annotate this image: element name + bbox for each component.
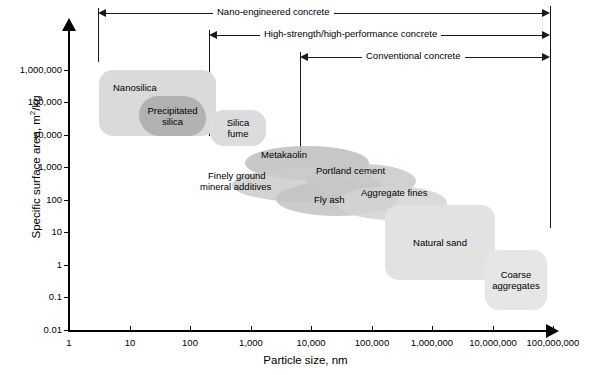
- x-tick-label: 100: [155, 337, 225, 348]
- region-label-line2: fume: [227, 128, 248, 139]
- region-label-line1: Coarse: [501, 269, 532, 280]
- y-tick-label: 0.01: [0, 325, 62, 335]
- region-label: Nanosilica: [113, 82, 157, 93]
- region-precipitated-silica: Precipitated silica: [139, 96, 206, 136]
- y-tick: [64, 102, 69, 103]
- annotation-high-strength: High-strength/high-performance concrete: [209, 30, 550, 40]
- x-tick: [372, 326, 373, 331]
- x-tick: [69, 326, 70, 331]
- y-axis-arrow-icon: [62, 18, 76, 31]
- region-label-line2: aggregates: [492, 280, 540, 291]
- region-label: Metakaolin: [261, 149, 307, 160]
- region-label: Natural sand: [413, 237, 467, 248]
- y-axis-title: Specific surface area, m2/kg: [28, 52, 42, 282]
- x-tick-label: 10,000: [276, 337, 346, 348]
- x-tick: [432, 326, 433, 331]
- region-label: Portland cement: [316, 165, 385, 176]
- x-tick: [130, 326, 131, 331]
- region-label-line1: Precipitated: [147, 105, 197, 116]
- y-tick: [64, 265, 69, 266]
- region-coarse-aggregates: Coarse aggregates: [485, 250, 547, 310]
- annotation-label: High-strength/high-performance concrete: [260, 28, 441, 39]
- region-label-line1: Finely ground: [208, 170, 266, 181]
- x-tick-label: 1,000,000: [397, 337, 467, 348]
- x-tick-label: 1: [34, 337, 104, 348]
- x-tick-label: 100,000,000: [518, 337, 588, 348]
- x-axis-line: [68, 330, 548, 332]
- region-label-line2: silica: [162, 116, 183, 127]
- region-label: Fly ash: [314, 194, 345, 205]
- y-axis-title-exponent: 2: [28, 111, 37, 115]
- annotation-nano-engineered: Nano-engineered concrete: [98, 8, 550, 18]
- y-tick: [64, 297, 69, 298]
- y-tick: [64, 167, 69, 168]
- arrow-cap-right-icon: [542, 9, 550, 17]
- y-tick: [64, 70, 69, 71]
- region-label: Aggregate fines: [361, 187, 428, 198]
- annotation-guide-inner: [300, 52, 301, 152]
- region-label-line2: mineral additives: [200, 181, 271, 192]
- region-natural-sand: Natural sand: [385, 205, 495, 280]
- x-tick: [553, 326, 554, 331]
- x-tick: [311, 326, 312, 331]
- annotation-conventional: Conventional concrete: [300, 52, 550, 62]
- y-axis-line: [68, 28, 70, 331]
- x-tick: [493, 326, 494, 331]
- arrow-cap-right-icon: [542, 53, 550, 61]
- region-label-line1: Silica: [227, 117, 250, 128]
- y-axis-title-tail: /kg: [30, 95, 42, 110]
- y-tick: [64, 135, 69, 136]
- annotation-label: Conventional concrete: [362, 50, 465, 61]
- x-tick: [190, 326, 191, 331]
- region-silica-fume: Silica fume: [210, 110, 266, 146]
- x-axis-title: Particle size, nm: [0, 354, 611, 366]
- annotation-label: Nano-engineered concrete: [213, 6, 334, 17]
- chart-canvas: Nano-engineered concrete High-strength/h…: [0, 0, 611, 375]
- x-tick: [251, 326, 252, 331]
- y-tick: [64, 232, 69, 233]
- y-tick-label: 0.1: [0, 292, 62, 302]
- y-axis-title-main: Specific surface area, m: [30, 115, 42, 238]
- y-tick: [64, 200, 69, 201]
- annotation-guide-right: [550, 6, 551, 228]
- arrow-cap-right-icon: [542, 31, 550, 39]
